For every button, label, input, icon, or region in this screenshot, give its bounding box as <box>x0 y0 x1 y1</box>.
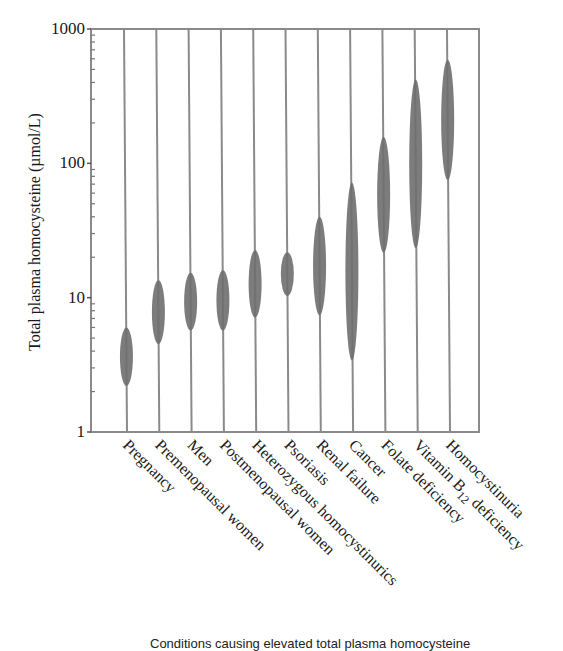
range-ellipse <box>281 252 294 296</box>
y-tick-label: 100 <box>60 153 86 172</box>
y-tick-label: 1 <box>77 422 86 441</box>
category-line <box>253 29 256 432</box>
y-tick-label: 1000 <box>51 19 85 38</box>
category-line <box>286 29 289 432</box>
x-axis-caption: Conditions causing elevated total plasma… <box>150 636 470 651</box>
range-ellipse <box>313 217 326 315</box>
range-ellipse <box>216 270 229 330</box>
range-ellipse <box>377 137 390 253</box>
y-axis-label: Total plasma homocysteine (µmol/L) <box>26 113 44 351</box>
range-ellipse <box>345 182 358 360</box>
category-line <box>221 29 224 432</box>
range-ellipse <box>184 273 197 331</box>
category-line <box>189 29 192 432</box>
y-tick-label: 10 <box>68 288 85 307</box>
range-ellipse <box>441 60 454 180</box>
range-ellipse <box>120 327 133 386</box>
category-lines <box>124 29 450 432</box>
range-ellipse <box>409 80 422 248</box>
range-ellipse <box>249 250 262 318</box>
y-axis-tick-labels: 1101001000 <box>51 19 85 441</box>
range-ellipse <box>152 280 165 344</box>
category-line <box>156 29 159 432</box>
x-axis-category-labels: PregnancyPremenopausal womenMenPostmenop… <box>119 436 528 589</box>
